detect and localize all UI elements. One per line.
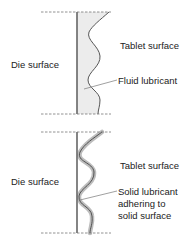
die-surface-label: Die surface — [11, 59, 59, 70]
solid-lubricant-label-line3: solid surface — [118, 210, 171, 221]
die-surface-label: Die surface — [11, 176, 59, 187]
solid-lubricant-label-line2: adhering to — [118, 198, 166, 209]
solid-lubricant-label-line1: Solid lubricant — [118, 186, 178, 197]
callout-leader — [80, 191, 117, 200]
lubrication-diagram — [0, 0, 196, 241]
tablet-surface-label: Tablet surface — [120, 40, 179, 51]
fluid-lubricant-label: Fluid lubricant — [118, 75, 177, 86]
tablet-surface-label: Tablet surface — [120, 160, 179, 171]
